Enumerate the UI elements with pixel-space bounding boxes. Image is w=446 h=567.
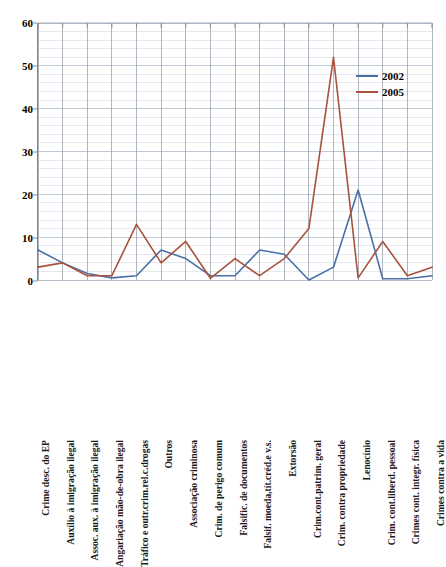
y-tick-label: 60 xyxy=(7,18,33,29)
legend-item-2005[interactable]: 2005 xyxy=(356,84,434,100)
x-tick-label-text: Outros xyxy=(164,440,174,469)
y-tick-label: 10 xyxy=(7,233,33,244)
y-tick-label: 0 xyxy=(7,276,33,287)
x-tick-label-text: Associação criminosa xyxy=(189,440,199,528)
x-axis-labels: Crime desc. do EPAuxílio à imigração ile… xyxy=(37,284,432,442)
x-tick-label-text: Falsif. moeda,tít.créd.e v.s. xyxy=(263,440,273,549)
legend-swatch-icon xyxy=(356,75,378,77)
y-axis: 0102030405060 xyxy=(0,23,33,281)
series-line-2002 xyxy=(38,190,432,280)
y-tick-label: 50 xyxy=(7,61,33,72)
legend-label: 2005 xyxy=(382,87,404,98)
x-tick-label-text: Crimes contra a vida xyxy=(436,440,446,526)
legend: 20022005 xyxy=(356,68,434,102)
x-tick-label-text: Crimes cont. integr. física xyxy=(411,440,421,544)
x-tick-label-text: Crim. contra propriedade xyxy=(337,440,347,546)
x-tick-label-text: Extorsão xyxy=(288,440,298,477)
x-tick-label-text: Crim. cont.liberd. pessoal xyxy=(387,440,397,545)
legend-label: 2002 xyxy=(382,71,404,82)
y-tick-label: 30 xyxy=(7,147,33,158)
y-tick-label: 40 xyxy=(7,104,33,115)
x-tick-label-text: Auxílio à imigração ilegal xyxy=(66,440,76,545)
x-tick-label-text: Tráfico e outr.crim.rel.c.drogas xyxy=(140,440,150,567)
x-tick-label-text: Lenocínio xyxy=(362,440,372,481)
x-tick-label-text: Falsific. de documentos xyxy=(239,440,249,536)
series-lines xyxy=(38,23,432,280)
legend-item-2002[interactable]: 2002 xyxy=(356,68,434,84)
x-tick-label-text: Crime desc. do EP xyxy=(41,440,51,516)
x-tick-label-text: Angariação mão-de-obra ilegal xyxy=(115,440,125,567)
y-tick-label: 20 xyxy=(7,190,33,201)
x-tick-label-text: Crim.cont.patrim. geral xyxy=(313,440,323,538)
x-tick-label-text: Crim. de perigo comum xyxy=(214,440,224,538)
x-tick-label-text: Assoc. aux. à imigração ilegal xyxy=(90,440,100,560)
legend-swatch-icon xyxy=(356,91,378,93)
plot-area xyxy=(37,23,432,281)
